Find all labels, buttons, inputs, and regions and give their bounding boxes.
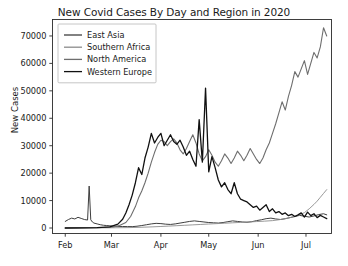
y-tick-label: 60000	[20, 58, 46, 68]
y-tick-label: 0	[41, 223, 46, 233]
y-tick-label: 20000	[20, 168, 46, 178]
y-tick-label: 50000	[20, 86, 46, 96]
series-line-southern-africa	[65, 190, 326, 228]
legend-label-3: Western Europe	[87, 67, 152, 77]
y-tick-label: 70000	[20, 31, 46, 41]
x-tick-label: Feb	[58, 240, 73, 250]
chart-plot-area: 010000200003000040000500006000070000 Feb…	[0, 0, 348, 266]
x-tick-label: Jun	[251, 240, 265, 250]
x-tick-label: Apr	[154, 240, 169, 250]
legend-label-2: North America	[87, 54, 146, 64]
y-tick-label: 10000	[20, 196, 46, 206]
x-tick-label: May	[200, 240, 217, 250]
legend-label-1: Southern Africa	[87, 42, 150, 52]
y-tick-label: 40000	[20, 113, 46, 123]
series-line-western-europe	[65, 88, 326, 228]
x-tick-label: Jul	[300, 240, 311, 250]
chart-legend: East AsiaSouthern AfricaNorth AmericaWes…	[58, 24, 156, 83]
x-tick-label: Mar	[104, 240, 120, 250]
y-axis-ticks: 010000200003000040000500006000070000	[20, 31, 52, 233]
chart-figure: New Covid Cases By Day and Region in 202…	[0, 0, 348, 266]
series-line-east-asia	[65, 186, 326, 227]
legend-label-0: East Asia	[87, 30, 124, 40]
x-axis-ticks: FebMarAprMayJunJul	[58, 234, 311, 250]
y-tick-label: 30000	[20, 141, 46, 151]
